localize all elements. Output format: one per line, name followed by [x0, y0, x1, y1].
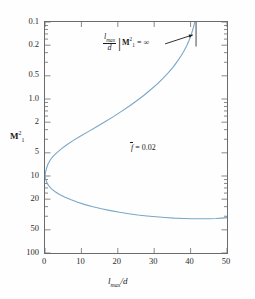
y-tick-label: 1.0 [0, 93, 39, 103]
f-bar-value: = 0.02 [135, 143, 156, 152]
y-tick-label: 100 [0, 247, 39, 257]
y-tick-label: 0.1 [0, 16, 39, 26]
condition-sub: 1 [132, 42, 135, 48]
x-axis-title-sub: max [111, 282, 121, 288]
condition-M: M [122, 38, 130, 47]
y-tick-label: 50 [0, 223, 39, 233]
plot-area [44, 21, 228, 254]
y-tick-label: 20 [0, 193, 39, 203]
y-tick-label: 10 [0, 170, 39, 180]
evaluation-bar: | [118, 37, 121, 49]
asymptote-annotation: lmax d |M21 = ∞ [103, 33, 149, 53]
x-tick-label: 30 [143, 256, 163, 266]
x-tick-label: 10 [70, 256, 90, 266]
condition-value: = ∞ [137, 38, 149, 47]
x-axis-title-rest: /d [120, 276, 127, 286]
x-tick-label: 50 [216, 256, 236, 266]
x-axis-title: lmax/d [108, 276, 127, 288]
f-bar-symbol: f [131, 143, 133, 152]
x-tick-label: 0 [34, 256, 54, 266]
x-tick-label: 40 [180, 256, 200, 266]
y-tick-label: 0.5 [0, 69, 39, 79]
friction-parameter-annotation: f = 0.02 [131, 143, 156, 152]
plot-canvas [45, 22, 227, 253]
y-tick-label: 5 [0, 146, 39, 156]
y-tick-label: 2 [0, 116, 39, 126]
y-axis-title-base: M [10, 131, 19, 141]
fraction-denominator: d [103, 44, 116, 52]
y-axis-title: M21 [10, 130, 24, 143]
y-axis-title-sup: 2 [19, 130, 22, 136]
x-tick-label: 20 [107, 256, 127, 266]
figure-container: 100502010521.00.50.20.1 01020304050 M21 … [0, 0, 255, 299]
lmax-over-d-fraction: lmax d [103, 33, 116, 53]
y-axis-title-sub: 1 [21, 137, 24, 143]
y-tick-label: 0.2 [0, 39, 39, 49]
